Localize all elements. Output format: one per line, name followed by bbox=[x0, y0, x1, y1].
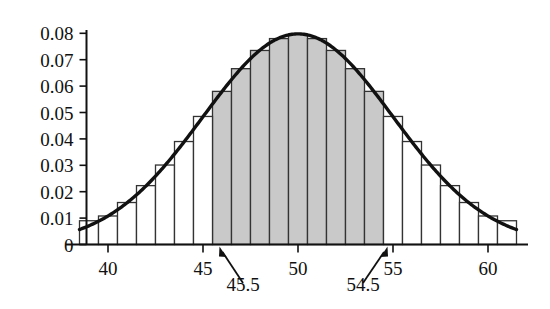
y-tick-label: 0.07 bbox=[0, 51, 74, 70]
y-tick-label: 0.08 bbox=[0, 24, 74, 43]
x-axis-ticks bbox=[108, 245, 488, 253]
histogram-bar bbox=[270, 39, 289, 245]
histogram-bar bbox=[422, 165, 441, 244]
histogram-bar bbox=[308, 39, 327, 245]
histogram-bar bbox=[289, 34, 308, 244]
histogram-bar bbox=[384, 116, 403, 244]
y-tick-label: 0.05 bbox=[0, 104, 74, 123]
y-tick-label: 0.01 bbox=[0, 209, 74, 228]
y-axis-ticks bbox=[80, 33, 87, 244]
histogram-bar bbox=[251, 50, 270, 244]
histogram-bar bbox=[365, 91, 384, 244]
histogram-bar bbox=[213, 91, 232, 244]
annotation-arrow-head-545 bbox=[381, 247, 389, 258]
y-tick-label: 0.06 bbox=[0, 77, 74, 96]
annotation-label-45-5: 45.5 bbox=[205, 275, 281, 294]
histogram-bar bbox=[403, 142, 422, 245]
annotation-arrow-head-455 bbox=[219, 247, 227, 258]
y-tick-label: 0 bbox=[0, 236, 74, 255]
histogram-bar bbox=[327, 50, 346, 244]
annotation-label-54-5: 54.5 bbox=[325, 275, 401, 294]
shaded-bars-group bbox=[213, 34, 384, 244]
histogram-bar bbox=[156, 165, 175, 244]
y-tick-label: 0.04 bbox=[0, 130, 74, 149]
x-tick-label: 40 bbox=[78, 259, 138, 278]
histogram-bar bbox=[175, 142, 194, 245]
chart-figure: 00.010.020.030.040.050.060.070.08 404550… bbox=[0, 0, 550, 309]
histogram-bar bbox=[232, 69, 251, 245]
y-tick-label: 0.02 bbox=[0, 183, 74, 202]
histogram-bar bbox=[194, 116, 213, 244]
histogram-bar bbox=[346, 69, 365, 245]
x-tick-label: 60 bbox=[458, 259, 518, 278]
y-tick-label: 0.03 bbox=[0, 156, 74, 175]
